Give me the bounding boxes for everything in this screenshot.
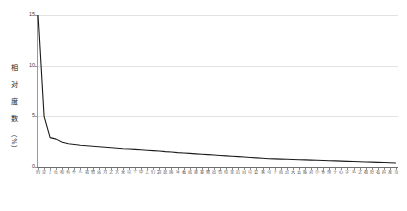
x-tick-mark: [275, 168, 276, 170]
x-tick-label: 自: [242, 170, 247, 174]
relative-frequency-line-chart: 相 对 度 数 （%） 051015 的是了在和有不人我他这为之大来以个中上们到…: [0, 0, 407, 211]
x-tick-label: 大: [114, 170, 119, 174]
plot-area: 051015: [37, 15, 398, 168]
x-tick-mark: [329, 168, 330, 170]
x-tick-label: 之: [108, 170, 113, 174]
x-tick-label: 心: [339, 170, 344, 174]
x-tick-label: 里: [230, 170, 235, 174]
x-tick-label: 的: [36, 170, 41, 174]
y-tick-label-15: 15: [15, 12, 35, 17]
x-tick-label: 来: [120, 170, 125, 174]
x-axis-tick-labels: 的是了在和有不人我他这为之大来以个中上们到说国年着就那要她出也得里后自以会家可下…: [37, 170, 398, 210]
x-tick-mark: [269, 168, 270, 170]
x-tick-mark: [323, 168, 324, 170]
x-tick-mark: [68, 168, 69, 170]
x-tick-label: 于: [333, 170, 338, 174]
x-tick-label: 家: [260, 170, 265, 174]
x-tick-label: 以: [248, 170, 253, 174]
y-tick-label-5: 5: [15, 113, 35, 118]
x-tick-label: 后: [236, 170, 241, 174]
x-tick-label: 上: [145, 170, 150, 174]
x-tick-mark: [287, 168, 288, 170]
x-tick-mark: [244, 168, 245, 170]
x-tick-mark: [165, 168, 166, 170]
x-tick-label: 到: [157, 170, 162, 174]
x-tick-label: 可: [266, 170, 271, 174]
y-tick-label-0: 0: [15, 164, 35, 169]
x-tick-mark: [378, 168, 379, 170]
x-tick-label: 了: [48, 170, 53, 174]
x-tick-label: 个: [133, 170, 138, 174]
x-tick-mark: [196, 168, 197, 170]
x-tick-label: 之: [357, 170, 362, 174]
x-tick-mark: [354, 168, 355, 170]
x-tick-label: 么: [351, 170, 356, 174]
x-tick-mark: [87, 168, 88, 170]
x-tick-mark: [226, 168, 227, 170]
y-axis-title-char-2: 度: [8, 98, 20, 107]
x-tick-label: 当: [394, 170, 399, 174]
x-tick-mark: [238, 168, 239, 170]
x-tick-mark: [74, 168, 75, 170]
x-tick-mark: [105, 168, 106, 170]
x-tick-mark: [347, 168, 348, 170]
x-tick-mark: [341, 168, 342, 170]
x-tick-label: 多: [321, 170, 326, 174]
x-tick-mark: [56, 168, 57, 170]
x-tick-label: 那: [193, 170, 198, 174]
x-tick-mark: [263, 168, 264, 170]
x-tick-mark: [111, 168, 112, 170]
x-tick-mark: [232, 168, 233, 170]
x-tick-mark: [311, 168, 312, 170]
x-tick-label: 着: [181, 170, 186, 174]
x-tick-mark: [38, 168, 39, 170]
y-tick-label-10: 10: [15, 63, 35, 68]
x-tick-label: 出: [211, 170, 216, 174]
x-tick-label: 我: [84, 170, 89, 174]
x-tick-label: 在: [54, 170, 59, 174]
x-tick-label: 和: [60, 170, 65, 174]
x-tick-label: 都: [363, 170, 368, 174]
x-tick-label: 然: [327, 170, 332, 174]
x-tick-label: 能: [302, 170, 307, 174]
x-tick-label: 有: [66, 170, 71, 174]
x-tick-mark: [178, 168, 179, 170]
x-tick-label: 发: [387, 170, 392, 174]
x-tick-mark: [135, 168, 136, 170]
x-tick-mark: [141, 168, 142, 170]
y-axis-title-unit: （%）: [10, 132, 19, 144]
x-tick-mark: [184, 168, 185, 170]
x-tick-mark: [147, 168, 148, 170]
x-tick-label: 而: [278, 170, 283, 174]
x-tick-mark: [190, 168, 191, 170]
x-tick-mark: [305, 168, 306, 170]
y-axis-title-char-1: 对: [8, 81, 20, 90]
x-tick-mark: [208, 168, 209, 170]
x-tick-mark: [99, 168, 100, 170]
x-tick-label: 说: [163, 170, 168, 174]
x-tick-mark: [62, 168, 63, 170]
x-tick-mark: [372, 168, 373, 170]
x-tick-mark: [50, 168, 51, 170]
x-tick-label: 这: [96, 170, 101, 174]
x-tick-label: 他: [90, 170, 95, 174]
x-tick-mark: [117, 168, 118, 170]
x-tick-label: 她: [205, 170, 210, 174]
x-tick-mark: [396, 168, 397, 170]
x-tick-label: 人: [78, 170, 83, 174]
x-tick-mark: [123, 168, 124, 170]
x-tick-mark: [317, 168, 318, 170]
x-tick-mark: [80, 168, 81, 170]
x-tick-label: 也: [218, 170, 223, 174]
x-tick-mark: [129, 168, 130, 170]
x-tick-label: 为: [102, 170, 107, 174]
x-tick-label: 看: [375, 170, 380, 174]
x-tick-label: 以: [127, 170, 132, 174]
x-tick-mark: [171, 168, 172, 170]
x-tick-label: 去: [296, 170, 301, 174]
x-tick-mark: [384, 168, 385, 170]
x-tick-mark: [299, 168, 300, 170]
x-tick-label: 会: [254, 170, 259, 174]
x-tick-label: 起: [381, 170, 386, 174]
x-tick-mark: [153, 168, 154, 170]
